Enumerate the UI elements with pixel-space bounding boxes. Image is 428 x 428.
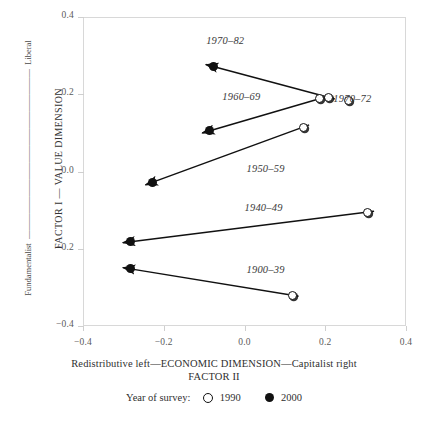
data-point-1990[interactable] [288,291,297,300]
y-axis-dash: ———————————————————— [23,67,33,241]
legend-label-2000: 2000 [281,392,302,403]
x-axis-title: Redistributive left—ECONOMIC DIMENSION—C… [0,358,428,383]
legend-marker-2000-icon [265,393,274,402]
y-axis-pole-top: Liberal [23,40,33,65]
x-tick-mark [83,326,84,331]
data-point-1990[interactable] [324,93,333,102]
cohort-label: 1950–59 [247,163,285,174]
x-tick-mark [406,326,407,331]
plot-area [83,17,406,326]
x-tick-mark [325,326,326,331]
cohort-label: 1960–69 [222,91,260,102]
scatter-chart-figure: 0.40.20.0−0.2−0.4−0.4−0.20.00.20.41970–8… [0,0,428,428]
x-tick-label: −0.4 [63,337,103,347]
cohort-label: 1970–82 [206,35,244,46]
data-point-1990[interactable] [363,208,372,217]
y-tick-mark [78,249,84,250]
x-tick-label: −0.2 [144,337,184,347]
x-tick-mark [164,326,165,331]
cohort-label: 1940–49 [245,202,283,213]
y-axis-pole-bottom: Fundamentalist [23,243,33,295]
x-axis-title-line1: Redistributive left—ECONOMIC DIMENSION—C… [0,358,428,371]
legend-title: Year of survey: [126,392,190,403]
y-tick-mark [78,17,84,18]
x-tick-label: 0.0 [225,337,265,347]
y-axis-title-outer: Fundamentalist ———————————————————— Libe… [23,18,33,318]
y-tick-mark [78,172,84,173]
data-point-2000[interactable] [209,62,218,71]
x-tick-label: 0.2 [305,337,345,347]
legend: Year of survey: 1990 2000 [0,391,428,403]
x-tick-mark [245,326,246,331]
data-point-2000[interactable] [126,237,135,246]
y-tick-label: −0.4 [40,319,74,329]
y-tick-mark [78,94,84,95]
cohort-label: 1900–39 [247,264,285,275]
x-tick-label: 0.4 [386,337,426,347]
legend-marker-1990-icon [203,393,213,403]
cohort-label: 1970–72 [333,93,371,104]
legend-label-1990: 1990 [220,392,241,403]
data-point-1990[interactable] [299,123,308,132]
y-axis-title-inner: FACTOR I — VALUE DIMENSION [53,19,64,319]
x-axis-title-line2: FACTOR II [0,371,428,384]
data-point-2000[interactable] [148,178,157,187]
